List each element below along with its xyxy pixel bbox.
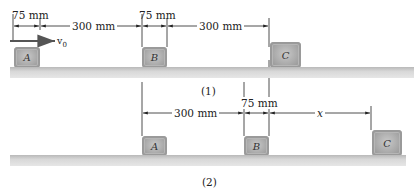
dim-label-gap-b: 75 mm xyxy=(241,97,278,109)
block-c: C xyxy=(372,130,402,156)
dim-label-span-ab: 300 mm xyxy=(172,107,219,119)
dim-label-span-bc: 300 mm xyxy=(197,20,244,32)
block-a: A xyxy=(142,136,167,156)
dim-label-gap-a: 75 mm xyxy=(12,9,49,21)
dim-label-span-ab: 300 mm xyxy=(70,20,117,32)
panel-2-caption: (2) xyxy=(202,176,217,188)
ground-surface xyxy=(10,67,414,78)
dim-label-gap-b: 75 mm xyxy=(139,9,176,21)
block-b: B xyxy=(244,136,269,156)
panel-1-caption: (1) xyxy=(201,85,216,97)
velocity-label: v0 xyxy=(57,35,67,51)
ground-surface xyxy=(10,155,406,166)
block-a: A xyxy=(14,47,40,68)
block-b: B xyxy=(142,47,167,68)
dim-label-x: x xyxy=(315,107,325,119)
block-c: C xyxy=(270,42,301,68)
